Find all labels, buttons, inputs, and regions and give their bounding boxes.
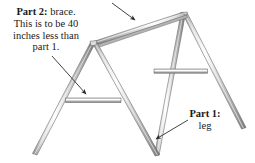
part-1-label-separator: :: [217, 108, 221, 119]
part-2-line-2: This is to be 40: [2, 18, 90, 30]
part-2-line-4: part 1.: [2, 41, 90, 53]
left-frame-apex: [90, 41, 97, 46]
left-brace: [66, 98, 122, 102]
right-brace: [154, 69, 208, 73]
part-2-label: Part 2: [16, 6, 44, 17]
callout-part-2-line-1: Part 2: brace.: [2, 6, 90, 18]
left-frame: [33, 41, 160, 156]
callout-part-1-line-1: Part 1:: [176, 108, 234, 120]
part-1-label: Part 1: [189, 108, 217, 119]
figure-container: Part 2: brace. This is to be 40 inches l…: [0, 0, 255, 163]
ridge-beam: [92, 12, 187, 48]
right-frame: [154, 12, 246, 156]
part-2-line-1-rest: brace.: [48, 6, 76, 17]
callout-part-1: Part 1: leg: [176, 108, 234, 132]
callout-part-2: Part 2: brace. This is to be 40 inches l…: [2, 6, 90, 53]
right-frame-left-leg: [155, 13, 186, 155]
part-2-line-3: inches less than: [2, 30, 90, 42]
arrow-to-ridge-beam: [112, 3, 135, 20]
part-1-line-2: leg: [176, 120, 234, 132]
